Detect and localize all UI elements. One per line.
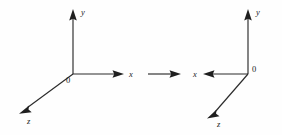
left-axis-y [69, 9, 77, 74]
left-axis-y-arrowhead [69, 9, 77, 21]
left-axis-y-label: y [80, 7, 85, 17]
left-axis-x-arrowhead [113, 70, 125, 78]
left-axis-z-arrowhead [19, 106, 32, 114]
right-axis-z-line [215, 74, 248, 112]
right-axis-z [207, 74, 248, 119]
right-origin-label: 0 [252, 64, 256, 74]
right-axis-x-label: x [192, 69, 197, 79]
transform-arrow-head [170, 70, 182, 78]
left-axis-z [19, 74, 73, 114]
right-axis-x-arrowhead [203, 70, 215, 78]
transform-arrow [148, 70, 181, 78]
figure-root: y x z 0 [0, 0, 282, 135]
left-origin-label: 0 [66, 75, 70, 85]
left-axis-x [73, 70, 124, 78]
right-axis-z-arrowhead [207, 110, 220, 119]
left-axis-x-label: x [128, 69, 133, 79]
axes-canvas: y x z 0 [0, 0, 282, 135]
coordinate-system-left: y x z 0 [19, 7, 133, 126]
right-axis-x [203, 70, 248, 78]
right-axis-y [244, 9, 252, 74]
left-axis-z-label: z [26, 116, 31, 126]
right-axis-z-label: z [216, 119, 221, 129]
coordinate-system-right: y x z 0 [192, 7, 260, 129]
right-axis-y-arrowhead [244, 9, 252, 21]
right-axis-y-label: y [255, 7, 260, 17]
